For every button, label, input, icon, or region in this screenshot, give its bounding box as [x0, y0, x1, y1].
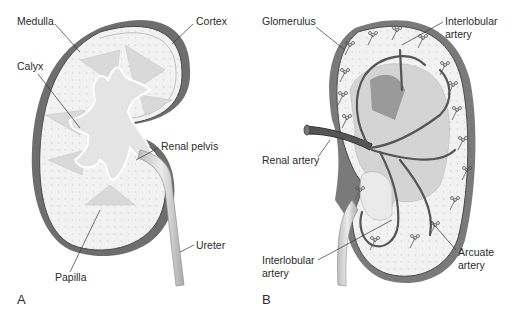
panel-b: Glomerulus Interlobular artery Renal art… — [262, 15, 498, 307]
kidney-diagram: Medulla Cortex Calyx Renal pelvis Ureter… — [0, 0, 512, 317]
label-papilla: Papilla — [55, 271, 87, 283]
label-arcuate-artery-2: artery — [458, 259, 486, 271]
label-renal-pelvis: Renal pelvis — [161, 140, 218, 152]
label-calyx: Calyx — [17, 60, 44, 72]
label-glomerulus: Glomerulus — [262, 15, 316, 27]
label-interlobular-artery-bottom-2: artery — [262, 267, 290, 279]
label-renal-artery: Renal artery — [262, 154, 320, 166]
label-interlobular-artery-top-2: artery — [445, 28, 473, 40]
label-arcuate-artery-1: Arcuate — [458, 246, 494, 258]
panel-a: Medulla Cortex Calyx Renal pelvis Ureter… — [17, 15, 228, 307]
label-medulla: Medulla — [17, 15, 54, 27]
label-cortex: Cortex — [196, 15, 228, 27]
panel-label-b: B — [262, 292, 271, 307]
panel-label-a: A — [17, 292, 26, 307]
label-interlobular-artery-bottom-1: Interlobular — [262, 254, 315, 266]
label-interlobular-artery-top-1: Interlobular — [445, 15, 498, 27]
label-ureter: Ureter — [196, 239, 226, 251]
